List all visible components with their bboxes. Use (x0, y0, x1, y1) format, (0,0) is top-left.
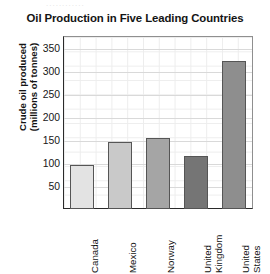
y-tick-label-200: 200 (43, 111, 60, 122)
top-text-remnant: ............ (46, 0, 166, 7)
x-tick-line: Canada (89, 239, 100, 273)
x-tick-line: Kingdom (214, 235, 225, 273)
gridline-200 (64, 118, 252, 119)
gridline-350 (64, 49, 252, 50)
x-tick-label-united-kingdom: UnitedKingdom (207, 211, 221, 273)
gridline-250 (64, 95, 252, 96)
x-tick-label-united-states: UnitedStates (245, 211, 259, 273)
x-tick-label-norway: Norway (164, 211, 178, 273)
y-tick-label-350: 350 (43, 42, 60, 53)
x-tick-line: States (252, 246, 263, 273)
x-tick-label-mexico: Mexico (126, 211, 140, 273)
plot-area (63, 36, 253, 209)
y-tick-label-250: 250 (43, 88, 60, 99)
x-axis-tick-labels: CanadaMexicoNorwayUnitedKingdomUnitedSta… (63, 211, 253, 273)
gridline-50 (64, 187, 252, 188)
y-tick-label-150: 150 (43, 134, 60, 145)
y-tick-label-100: 100 (43, 157, 60, 168)
y-tick-label-300: 300 (43, 65, 60, 76)
major-gridlines (64, 37, 252, 208)
y-axis-tick-labels: 50100150200250300350 (27, 36, 60, 209)
x-tick-line: Norway (165, 240, 176, 273)
x-tick-line: Mexico (127, 242, 138, 273)
bar-chart: ............ Oil Production in Five Lead… (0, 0, 270, 274)
gridline-100 (64, 164, 252, 165)
x-tick-label-canada: Canada (88, 211, 102, 273)
y-tick-label-50: 50 (48, 180, 60, 191)
gridline-150 (64, 141, 252, 142)
gridline-300 (64, 72, 252, 73)
